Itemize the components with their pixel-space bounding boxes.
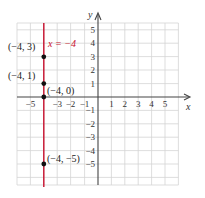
y-tick-label: −3 [85, 132, 95, 142]
x-tick-label: −5 [26, 99, 36, 109]
point-neg4-neg5 [41, 162, 46, 167]
point-neg4-3 [41, 54, 46, 59]
x-tick-label: 3 [136, 99, 141, 109]
x-tick-labels: −5 −3 −2 −1 1 2 3 4 5 [26, 99, 168, 109]
y-tick-label: 4 [91, 38, 96, 48]
point-neg4-1 [41, 81, 46, 86]
y-tick-label: −4 [85, 146, 95, 156]
equation-label: x = −4 [47, 38, 76, 49]
x-axis-label: x [185, 101, 191, 112]
y-tick-label: 5 [91, 25, 96, 35]
point-label: (−4, −5) [47, 153, 80, 165]
point-label: (−4, 0) [47, 85, 74, 97]
x-tick-label: 4 [149, 99, 154, 109]
y-tick-label: −5 [85, 159, 95, 169]
y-tick-label: 3 [91, 52, 96, 62]
y-tick-label: 2 [91, 65, 96, 75]
x-tick-label: 5 [163, 99, 168, 109]
y-tick-label: −2 [85, 119, 95, 129]
point-label: (−4, 3) [8, 41, 35, 53]
x-tick-label: −2 [66, 99, 76, 109]
point-neg4-0 [41, 95, 46, 100]
y-tick-label: 1 [91, 79, 96, 89]
x-tick-label: −3 [52, 99, 62, 109]
x-tick-label: 2 [123, 99, 128, 109]
coordinate-plane: x y −5 −3 −2 −1 1 2 3 4 5 5 4 3 2 1 −1 −… [0, 0, 205, 198]
x-tick-label: 1 [109, 99, 114, 109]
point-label: (−4, 1) [8, 70, 35, 82]
y-axis-label: y [87, 9, 93, 20]
y-tick-label: −1 [85, 105, 95, 115]
